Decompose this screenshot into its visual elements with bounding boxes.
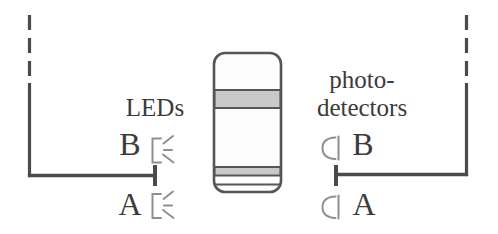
led-b-ray-top — [164, 136, 174, 144]
photodetectors-label: photo- detectors — [302, 66, 422, 122]
led-b-ray-bottom — [163, 155, 174, 163]
drum-band-thin — [215, 167, 281, 176]
led-b-bracket — [153, 139, 162, 163]
led-a-letter: A — [117, 188, 143, 220]
led-a-ray-top — [164, 192, 174, 200]
leds-label: LEDs — [115, 94, 195, 122]
led-a-ray-bottom — [163, 210, 174, 218]
diagram-artwork — [0, 0, 498, 234]
photodetectors-label-line1: photo- — [302, 66, 422, 94]
encoder-diagram: LEDs photo- detectors B A B A — [0, 0, 498, 234]
encoder-drum — [214, 53, 281, 192]
photodetector-b-lens — [323, 138, 336, 160]
photodetector-a-icon — [323, 196, 339, 219]
led-a-icon — [153, 192, 174, 219]
led-b-letter: B — [117, 128, 143, 160]
led-b-icon — [153, 136, 174, 163]
photodetector-a-letter: A — [351, 188, 377, 220]
led-a-bracket — [153, 194, 162, 218]
drum-band-wide — [215, 90, 281, 108]
photodetector-b-letter: B — [350, 128, 376, 160]
photodetector-b-icon — [323, 137, 339, 160]
photodetectors-label-line2: detectors — [302, 94, 422, 122]
photodetector-a-lens — [323, 197, 336, 219]
